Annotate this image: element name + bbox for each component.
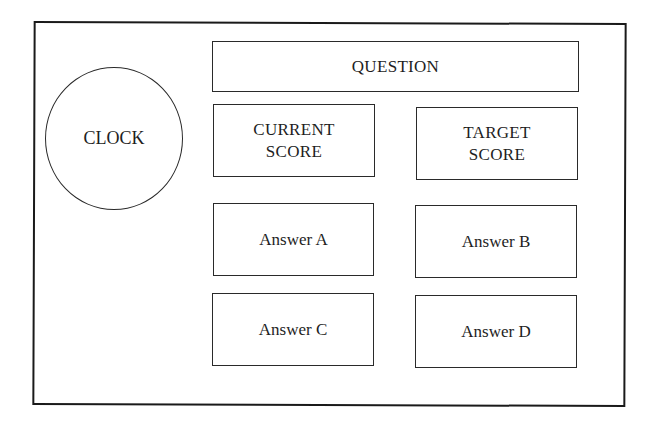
- target-score-label-line2: SCORE: [469, 144, 525, 166]
- answer-d-label: Answer D: [461, 322, 530, 342]
- answer-b-button[interactable]: Answer B: [415, 205, 577, 278]
- target-score-label-line1: TARGET: [463, 122, 530, 144]
- target-score-box: TARGET SCORE: [416, 107, 578, 180]
- answer-a-button[interactable]: Answer A: [213, 203, 374, 276]
- answer-b-label: Answer B: [462, 232, 530, 252]
- current-score-label-line1: CURRENT: [253, 119, 334, 141]
- question-label: QUESTION: [352, 56, 439, 78]
- answer-d-button[interactable]: Answer D: [415, 295, 577, 368]
- answer-c-label: Answer C: [259, 320, 327, 340]
- clock-label: CLOCK: [83, 128, 144, 149]
- answer-a-label: Answer A: [259, 230, 327, 250]
- current-score-label-line2: SCORE: [266, 141, 322, 163]
- question-box: QUESTION: [212, 41, 579, 92]
- clock: CLOCK: [45, 67, 183, 210]
- answer-c-button[interactable]: Answer C: [212, 293, 374, 366]
- current-score-box: CURRENT SCORE: [213, 104, 375, 177]
